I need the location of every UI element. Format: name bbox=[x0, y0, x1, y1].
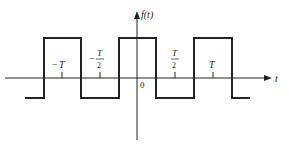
diagram-canvas: f(t) t 0 − T − T 2 T 2 T bbox=[0, 0, 289, 148]
tick-label-T-half-den: 2 bbox=[172, 61, 176, 70]
tick-label-neg-T: T bbox=[59, 59, 66, 70]
square-wave-diagram: f(t) t 0 − T − T 2 T 2 T bbox=[0, 0, 289, 148]
tick-label-neg-T-sign: − bbox=[52, 59, 58, 70]
f-axis-arrow-icon bbox=[134, 11, 140, 19]
tick-label-neg-T-half-sign: − bbox=[89, 53, 95, 64]
x-axis-label: t bbox=[275, 73, 278, 84]
t-axis-arrow-icon bbox=[264, 75, 272, 81]
tick-label-neg-T-half-num: T bbox=[97, 48, 103, 58]
origin-label: 0 bbox=[140, 80, 145, 90]
tick-label-T: T bbox=[209, 59, 216, 70]
tick-label-T-half-num: T bbox=[172, 48, 178, 58]
y-axis-label: f(t) bbox=[141, 9, 154, 21]
tick-label-neg-T-half-den: 2 bbox=[97, 61, 101, 70]
